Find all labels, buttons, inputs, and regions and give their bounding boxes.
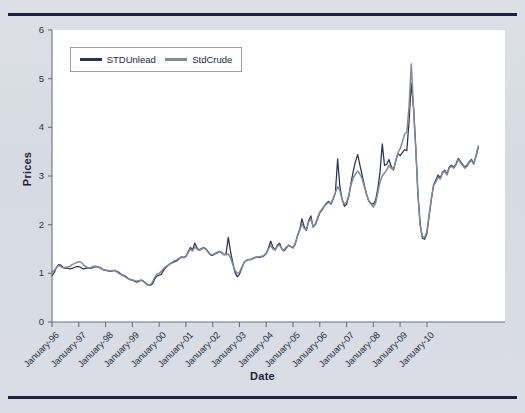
- y-tick-label: 6: [20, 24, 44, 35]
- chart-legend: STDUnlead StdCrude: [70, 47, 242, 72]
- legend-entry-stdunlead: STDUnlead: [80, 54, 156, 65]
- chart-figure: Prices Date 0123456 January-96January-97…: [0, 0, 525, 413]
- y-tick-label: 2: [20, 219, 44, 230]
- legend-entry-stdcrude: StdCrude: [165, 54, 232, 65]
- y-tick-label: 1: [20, 267, 44, 278]
- legend-label-stdunlead: STDUnlead: [107, 54, 156, 65]
- legend-swatch-stdunlead: [80, 58, 102, 61]
- legend-label-stdcrude: StdCrude: [192, 54, 232, 65]
- y-tick-label: 0: [20, 316, 44, 327]
- y-tick-label: 3: [20, 170, 44, 181]
- y-tick-label: 5: [20, 73, 44, 84]
- y-axis-label: Prices: [21, 134, 33, 204]
- y-tick-label: 4: [20, 121, 44, 132]
- legend-swatch-stdcrude: [165, 58, 187, 61]
